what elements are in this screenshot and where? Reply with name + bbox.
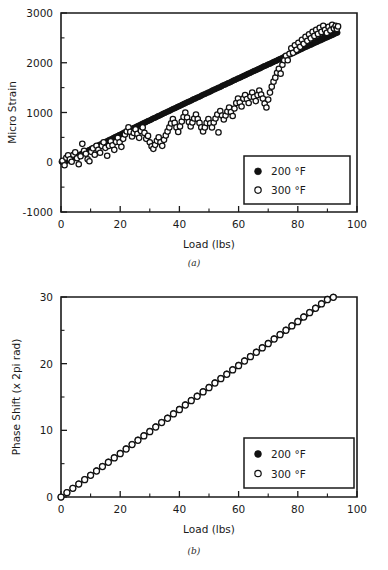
data-point bbox=[318, 301, 324, 307]
data-point bbox=[105, 459, 111, 465]
data-point bbox=[82, 477, 88, 483]
data-point bbox=[265, 341, 271, 347]
data-point bbox=[129, 442, 135, 448]
data-point bbox=[259, 345, 265, 351]
x-tick-label: 100 bbox=[347, 503, 367, 515]
y-tick-label: 10 bbox=[40, 424, 53, 436]
data-point bbox=[239, 104, 244, 109]
data-point bbox=[224, 371, 230, 377]
data-point bbox=[176, 407, 182, 413]
y-tick-label: 30 bbox=[40, 291, 53, 303]
x-tick-label: 100 bbox=[347, 218, 367, 230]
data-point bbox=[159, 420, 165, 426]
data-point bbox=[70, 485, 76, 491]
data-point bbox=[140, 125, 145, 130]
data-point bbox=[313, 305, 319, 311]
y-tick-label: 20 bbox=[40, 358, 53, 370]
data-point bbox=[170, 411, 176, 417]
y-tick-label: -1000 bbox=[22, 206, 53, 218]
data-point bbox=[88, 472, 94, 478]
data-point bbox=[111, 455, 117, 461]
data-point bbox=[165, 415, 171, 421]
data-point bbox=[176, 129, 181, 134]
legend-label: 300 °F bbox=[271, 184, 306, 196]
data-point bbox=[301, 314, 307, 320]
data-point bbox=[87, 159, 92, 164]
x-axis-title: Load (lbs) bbox=[183, 238, 235, 250]
data-point bbox=[277, 332, 283, 338]
x-tick-label: 80 bbox=[291, 503, 304, 515]
data-point bbox=[289, 323, 295, 329]
data-point bbox=[78, 154, 83, 159]
y-tick-label: 3000 bbox=[26, 7, 53, 19]
legend-marker-open bbox=[255, 187, 261, 193]
data-point bbox=[266, 97, 271, 102]
legend-marker-filled bbox=[255, 451, 262, 458]
y-tick-label: 1000 bbox=[26, 107, 53, 119]
legend-box bbox=[244, 438, 354, 488]
x-axis-title: Load (lbs) bbox=[183, 523, 235, 535]
y-tick-label: 0 bbox=[46, 156, 53, 168]
panel-caption-a: (a) bbox=[0, 258, 388, 268]
data-point bbox=[212, 380, 218, 386]
data-point bbox=[295, 319, 301, 325]
data-point bbox=[253, 98, 258, 103]
data-point bbox=[80, 141, 85, 146]
data-point bbox=[76, 162, 81, 167]
panel-caption-b: (b) bbox=[0, 546, 388, 556]
legend-marker-filled bbox=[255, 168, 262, 175]
data-point bbox=[285, 58, 290, 63]
data-point bbox=[330, 294, 336, 300]
data-point bbox=[101, 140, 106, 145]
data-point bbox=[141, 433, 147, 439]
x-tick-label: 20 bbox=[114, 503, 127, 515]
data-point bbox=[76, 481, 82, 487]
data-point bbox=[242, 358, 248, 364]
legend-label: 300 °F bbox=[271, 468, 306, 480]
data-point bbox=[324, 297, 330, 303]
scatter-plot-phase-shift: 0204060801000102030Load (lbs)Phase Shift… bbox=[0, 285, 388, 543]
data-point bbox=[119, 144, 124, 149]
legend-marker-open bbox=[255, 470, 261, 476]
data-point bbox=[153, 424, 159, 430]
data-point bbox=[206, 385, 212, 391]
y-tick-label: 0 bbox=[46, 491, 53, 503]
chart-panel-b: 0204060801000102030Load (lbs)Phase Shift… bbox=[0, 285, 388, 570]
data-point bbox=[307, 310, 313, 316]
data-point bbox=[264, 105, 269, 110]
data-point bbox=[283, 327, 289, 333]
scatter-plot-micro-strain: 020406080100-10000100020003000Load (lbs)… bbox=[0, 0, 388, 258]
data-point bbox=[247, 354, 253, 360]
x-tick-label: 0 bbox=[58, 218, 65, 230]
figure-container: 020406080100-10000100020003000Load (lbs)… bbox=[0, 0, 388, 570]
x-tick-label: 80 bbox=[291, 218, 304, 230]
data-point bbox=[69, 159, 74, 164]
data-point bbox=[335, 24, 340, 29]
data-point bbox=[112, 147, 117, 152]
x-tick-label: 20 bbox=[114, 218, 127, 230]
data-point bbox=[99, 464, 105, 470]
data-point bbox=[267, 90, 272, 95]
data-point bbox=[145, 133, 150, 138]
data-point bbox=[92, 152, 97, 157]
data-point bbox=[62, 163, 67, 168]
data-point bbox=[216, 130, 221, 135]
data-point bbox=[236, 363, 242, 369]
data-point bbox=[147, 429, 153, 435]
data-point bbox=[123, 446, 129, 452]
data-point bbox=[94, 468, 100, 474]
data-point bbox=[73, 150, 78, 155]
x-tick-label: 60 bbox=[232, 218, 245, 230]
data-point bbox=[136, 135, 141, 140]
data-point bbox=[278, 71, 283, 76]
x-tick-label: 60 bbox=[232, 503, 245, 515]
data-point bbox=[83, 151, 88, 156]
x-tick-label: 40 bbox=[173, 218, 186, 230]
data-point bbox=[200, 389, 206, 395]
data-point bbox=[182, 402, 188, 408]
data-point bbox=[188, 398, 194, 404]
data-point bbox=[58, 494, 64, 500]
data-point bbox=[232, 106, 237, 111]
data-point bbox=[135, 437, 141, 443]
data-point bbox=[230, 367, 236, 373]
